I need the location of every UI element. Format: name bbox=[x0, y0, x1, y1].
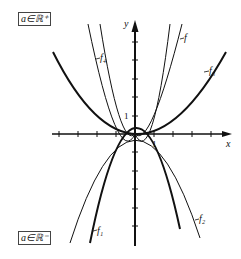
function-graph: y x 1 1 f₄ f f₃ f₁ f₂ bbox=[0, 0, 241, 259]
y-unit-label: 1 bbox=[124, 111, 129, 121]
x-axis-label: x bbox=[225, 138, 231, 149]
label-f2: f₂ bbox=[199, 213, 206, 224]
y-axis-label: y bbox=[123, 18, 129, 29]
label-f1: f₁ bbox=[97, 225, 103, 236]
y-axis-arrow-icon bbox=[132, 20, 139, 32]
label-f4: f₄ bbox=[100, 52, 107, 63]
x-axis-arrow-icon bbox=[222, 131, 232, 137]
x-unit-label: 1 bbox=[152, 139, 157, 149]
label-f: f bbox=[184, 32, 188, 43]
curve-f3 bbox=[53, 52, 226, 134]
label-f3: f₃ bbox=[209, 65, 216, 76]
curve-f4 bbox=[88, 24, 170, 141]
